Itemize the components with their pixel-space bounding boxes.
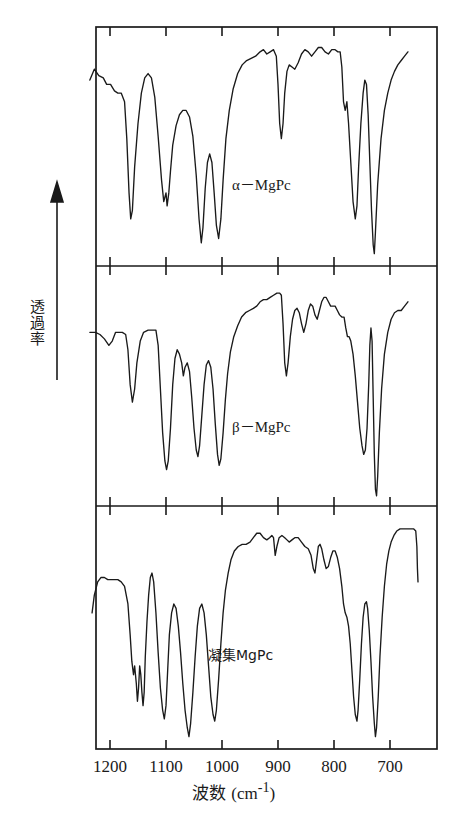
- x-axis-tick-labels: 120011001000900800700: [93, 757, 403, 776]
- spectra-traces: [90, 48, 418, 737]
- x-tick-label-1200: 1200: [93, 757, 127, 776]
- trace-aggregate: [92, 529, 418, 737]
- x-tick-label-800: 800: [321, 757, 347, 776]
- plot-frame: [96, 27, 437, 749]
- trace-beta: [90, 293, 408, 496]
- panel-labels: α－MgPcβ－MgPc凝集MgPc: [208, 177, 291, 663]
- y-axis-arrow: [51, 182, 63, 380]
- x-axis-ticks: [110, 27, 390, 749]
- x-tick-label-700: 700: [377, 757, 403, 776]
- x-tick-label-900: 900: [265, 757, 291, 776]
- spectra-plot: 120011001000900800700 α－MgPcβ－MgPc凝集MgPc: [0, 0, 467, 822]
- x-tick-label-1100: 1100: [149, 757, 182, 776]
- panel-label-beta: β－MgPc: [232, 419, 291, 435]
- x-axis-label-unit: (cm-1): [231, 784, 275, 803]
- x-axis-label: 波数 (cm-1): [0, 779, 467, 804]
- panel-label-aggregate: 凝集MgPc: [208, 647, 273, 663]
- x-axis-label-main: 波数: [192, 783, 226, 803]
- y-axis-label: 透過率: [24, 300, 52, 347]
- panel-label-alpha: α－MgPc: [232, 177, 291, 193]
- trace-alpha: [90, 48, 408, 254]
- ir-spectra-figure: 120011001000900800700 α－MgPcβ－MgPc凝集MgPc…: [0, 0, 467, 822]
- y-axis-label-char-2: 率: [24, 332, 52, 348]
- x-tick-label-1000: 1000: [205, 757, 239, 776]
